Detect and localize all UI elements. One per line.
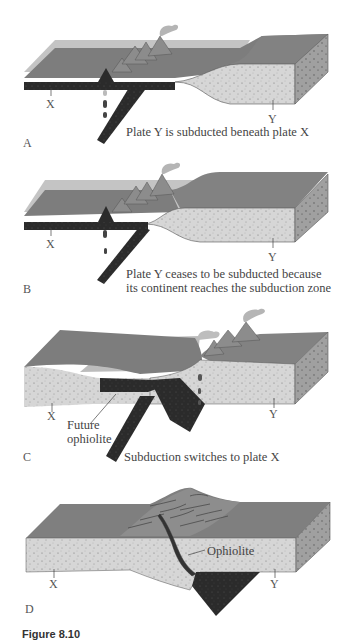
plate-x-label-a: X xyxy=(46,97,55,112)
panel-d: X Y Ophiolite D xyxy=(0,470,347,620)
caption-b-line1: Plate Y ceases to be subducted because xyxy=(126,267,322,281)
plate-x-label-b: X xyxy=(46,237,55,252)
caption-b-line2: its continent reaches the subduction zon… xyxy=(126,281,331,295)
future-ophiolite-line1: Future xyxy=(67,418,100,432)
caption-c: Subduction switches to plate X xyxy=(124,450,280,464)
plate-y-label-b: Y xyxy=(268,250,277,265)
panel-b: X Y Plate Y ceases to be subducted becau… xyxy=(0,160,347,300)
panel-a: X Y Plate Y is subducted beneath plate X… xyxy=(0,0,347,150)
panel-c: X Y Future ophiolite Subduction switches… xyxy=(0,300,347,470)
panel-d-diagram xyxy=(0,470,347,620)
plate-x-label-c: X xyxy=(47,409,56,424)
panel-c-diagram xyxy=(0,300,347,470)
panel-letter-b: B xyxy=(23,282,31,297)
panel-letter-d: D xyxy=(25,602,34,617)
plate-y-label-c: Y xyxy=(269,407,278,422)
future-ophiolite-line2: ophiolite xyxy=(67,432,111,446)
panel-letter-c: C xyxy=(23,450,31,465)
figure-caption-number: Figure 8.10 xyxy=(22,628,80,640)
caption-a: Plate Y is subducted beneath plate X xyxy=(126,125,309,139)
plate-x-label-d: X xyxy=(49,577,58,592)
ophiolite-label: Ophiolite xyxy=(207,544,254,558)
panel-letter-a: A xyxy=(23,136,32,151)
plate-y-label-d: Y xyxy=(270,577,279,592)
